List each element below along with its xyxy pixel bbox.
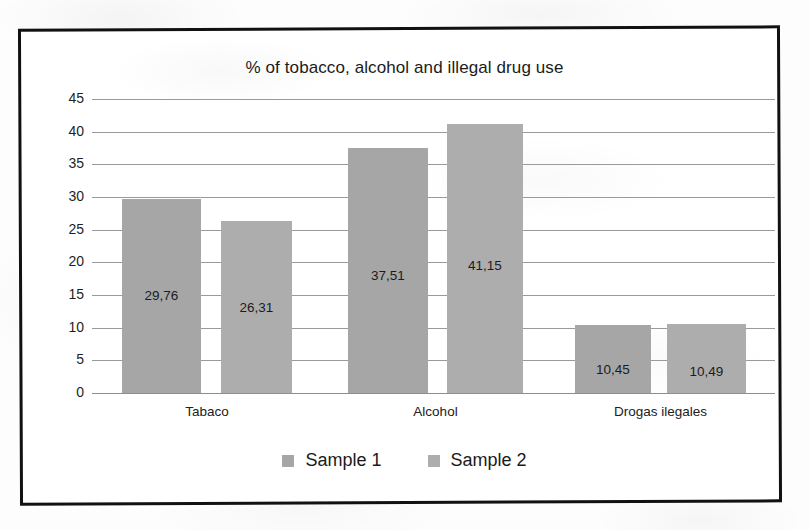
- bar-value-label: 26,31: [221, 300, 292, 315]
- y-tick-label-20: 20: [44, 253, 84, 269]
- y-tick-label-0: 0: [44, 384, 84, 400]
- y-tick-label-40: 40: [44, 123, 84, 139]
- legend-label: Sample 2: [451, 450, 527, 471]
- legend-label: Sample 1: [305, 450, 381, 471]
- y-tick-label-45: 45: [44, 90, 84, 106]
- gridline-40: [92, 132, 775, 133]
- legend-item-sample-1[interactable]: Sample 1: [282, 450, 381, 471]
- y-tick-label-35: 35: [44, 155, 84, 171]
- y-tick-label-15: 15: [44, 286, 84, 302]
- bar-value-label: 37,51: [348, 268, 428, 283]
- gridline-30: [92, 197, 775, 198]
- x-category-label-drogas-ilegales: Drogas ilegales: [575, 404, 746, 419]
- y-tick-label-5: 5: [44, 351, 84, 367]
- legend-item-sample-2[interactable]: Sample 2: [428, 450, 527, 471]
- gridline-45: [92, 99, 775, 100]
- chart-legend: Sample 1Sample 2: [0, 450, 809, 471]
- y-tick-label-10: 10: [44, 319, 84, 335]
- x-category-label-tabaco: Tabaco: [122, 404, 292, 419]
- x-category-label-alcohol: Alcohol: [348, 404, 523, 419]
- bar-drogas-ilegales-sample-1: [575, 325, 651, 393]
- legend-swatch-icon: [428, 455, 440, 467]
- bar-value-label: 41,15: [447, 258, 523, 273]
- y-tick-label-25: 25: [44, 221, 84, 237]
- bar-value-label: 10,49: [667, 364, 746, 379]
- y-tick-label-30: 30: [44, 188, 84, 204]
- bar-drogas-ilegales-sample-2: [667, 324, 746, 393]
- gridline-0: [92, 393, 775, 394]
- legend-swatch-icon: [282, 455, 294, 467]
- chart-title: % of tobacco, alcohol and illegal drug u…: [0, 58, 809, 78]
- gridline-35: [92, 164, 775, 165]
- bar-chart: % of tobacco, alcohol and illegal drug u…: [0, 0, 809, 530]
- bar-value-label: 29,76: [122, 288, 201, 303]
- bar-value-label: 10,45: [575, 362, 651, 377]
